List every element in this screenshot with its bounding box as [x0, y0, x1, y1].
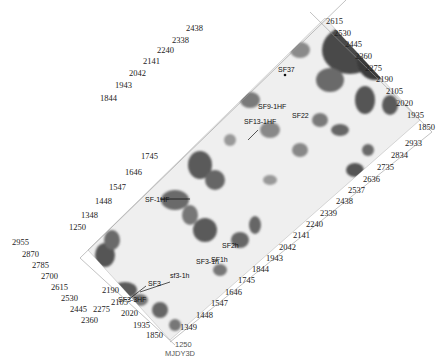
- svg-text:2141: 2141: [143, 56, 160, 66]
- svg-text:2955: 2955: [12, 237, 29, 247]
- svg-text:1349: 1349: [180, 322, 197, 332]
- svg-text:1943: 1943: [266, 253, 283, 263]
- svg-text:2240: 2240: [157, 45, 174, 55]
- svg-text:1348: 1348: [81, 210, 98, 220]
- svg-text:2785: 2785: [32, 260, 49, 270]
- svg-text:2338: 2338: [172, 35, 189, 45]
- svg-text:2445: 2445: [70, 304, 87, 314]
- svg-text:2042: 2042: [279, 242, 296, 252]
- svg-text:2020: 2020: [396, 98, 413, 108]
- well-label: SF22: [292, 112, 309, 119]
- svg-text:1448: 1448: [95, 196, 112, 206]
- svg-text:2240: 2240: [306, 219, 323, 229]
- svg-text:2190: 2190: [102, 285, 119, 295]
- svg-text:1448: 1448: [196, 310, 213, 320]
- svg-text:2735: 2735: [377, 162, 394, 172]
- svg-text:1547: 1547: [109, 182, 126, 192]
- svg-text:1250: 1250: [69, 222, 86, 232]
- svg-text:2042: 2042: [129, 68, 146, 78]
- svg-text:2438: 2438: [336, 196, 353, 206]
- svg-text:1745: 1745: [141, 151, 158, 161]
- svg-text:2190: 2190: [376, 74, 393, 84]
- svg-text:2615: 2615: [51, 282, 68, 292]
- svg-text:2700: 2700: [41, 271, 58, 281]
- svg-text:1844: 1844: [100, 93, 118, 103]
- svg-text:1745: 1745: [238, 275, 255, 285]
- svg-text:2870: 2870: [22, 249, 39, 259]
- svg-text:2834: 2834: [391, 150, 409, 160]
- svg-text:1850: 1850: [146, 330, 163, 340]
- svg-text:1850: 1850: [418, 122, 435, 132]
- survey-inline-label: 1250: [175, 340, 192, 349]
- svg-text:2636: 2636: [363, 174, 380, 184]
- svg-text:2020: 2020: [121, 308, 138, 318]
- well-label: SF3-3HF: [118, 296, 146, 303]
- svg-text:1547: 1547: [211, 298, 228, 308]
- svg-text:2275: 2275: [365, 63, 382, 73]
- svg-text:1935: 1935: [407, 110, 424, 120]
- svg-text:1844: 1844: [252, 264, 270, 274]
- well-label: SF1h: [211, 256, 228, 263]
- svg-text:2105: 2105: [386, 86, 403, 96]
- well-label: SF9-1HF: [258, 103, 286, 110]
- svg-text:2933: 2933: [405, 138, 422, 148]
- svg-text:2141: 2141: [293, 230, 310, 240]
- well-label: SF37: [278, 66, 295, 73]
- svg-text:1646: 1646: [125, 167, 142, 177]
- svg-text:2445: 2445: [345, 39, 362, 49]
- seismic-attribute-map: 1250 1348 1448 1547 1646 1745 1844 1943 …: [0, 0, 444, 362]
- svg-text:2530: 2530: [334, 28, 351, 38]
- svg-text:1935: 1935: [133, 320, 150, 330]
- svg-text:2360: 2360: [355, 51, 372, 61]
- svg-text:2275: 2275: [93, 304, 110, 314]
- svg-text:1646: 1646: [225, 287, 242, 297]
- well-label: SF2h: [222, 242, 239, 249]
- well-label: sf3-1h: [170, 272, 190, 279]
- svg-text:2530: 2530: [61, 293, 78, 303]
- well-label: SF-1HF: [145, 196, 170, 203]
- svg-text:1943: 1943: [115, 80, 132, 90]
- well-label: SF13-1HF: [244, 118, 276, 125]
- svg-text:2360: 2360: [81, 315, 98, 325]
- survey-name: MJDY3D: [165, 349, 196, 358]
- svg-text:2615: 2615: [326, 16, 343, 26]
- svg-text:2537: 2537: [348, 185, 365, 195]
- svg-text:2438: 2438: [186, 23, 203, 33]
- svg-text:2339: 2339: [320, 208, 337, 218]
